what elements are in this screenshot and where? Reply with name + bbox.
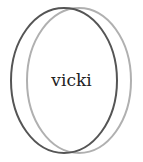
set-label-vicki: vicki xyxy=(50,70,92,90)
venn-diagram: vicki xyxy=(0,0,143,162)
